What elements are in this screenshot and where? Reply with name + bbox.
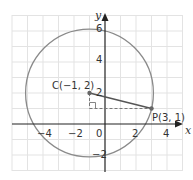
right-angle-marker: [90, 103, 96, 109]
point-c: [87, 91, 91, 95]
x-tick: 2: [132, 128, 138, 139]
y-axis-arrow-icon: [102, 13, 109, 21]
y-tick: 4: [96, 54, 102, 65]
coordinate-diagram: C(−1, 2) P(3, 1) x y −4 −2 0 2 4 6 4 2 −…: [0, 0, 193, 180]
x-tick: −4: [37, 128, 52, 139]
y-axis-label: y: [94, 9, 102, 22]
x-tick: 4: [163, 128, 169, 139]
point-p-label: P(3, 1): [152, 112, 185, 123]
x-axis-label: x: [185, 124, 192, 137]
x-tick: 0: [96, 128, 102, 139]
y-tick: −2: [92, 149, 107, 160]
point-p: [149, 106, 153, 110]
point-c-label: C(−1, 2): [52, 80, 94, 91]
y-tick: 6: [96, 23, 102, 34]
x-tick: −2: [68, 128, 83, 139]
y-tick: 2: [96, 87, 102, 98]
